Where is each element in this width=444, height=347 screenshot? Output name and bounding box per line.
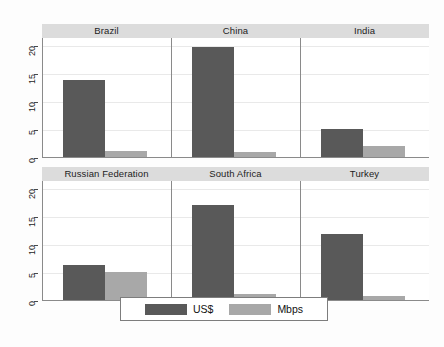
y-tick-label: 5 [27, 273, 37, 278]
y-axis-row-1: 0 5 10 15 20 [4, 38, 38, 158]
plot-area-south-africa [171, 181, 300, 301]
chart-container: 0 5 10 15 20 Brazil [0, 0, 444, 347]
panel-title-south-africa: South Africa [171, 167, 300, 181]
bars-south-africa [172, 181, 300, 300]
panel-title-india: India [300, 24, 429, 38]
y-tick-label: 0 [27, 158, 37, 163]
bars-india [301, 38, 429, 157]
legend-swatch-icon-us [145, 304, 187, 315]
bar-us-brazil[interactable] [63, 80, 105, 157]
bar-us-china[interactable] [192, 47, 234, 158]
legend-item-mbps[interactable]: Mbps [229, 303, 303, 315]
legend-item-us[interactable]: US$ [145, 303, 213, 315]
plot-area-turkey [300, 181, 429, 301]
y-tick-label: 0 [27, 301, 37, 306]
y-tick-label: 15 [27, 217, 37, 227]
chart-legend: US$ Mbps [120, 297, 328, 321]
bars-brazil [43, 38, 171, 157]
panel-title-brazil: Brazil [42, 24, 171, 38]
bar-us-russian-federation[interactable] [63, 265, 105, 300]
y-axis-row-2: 0 5 10 15 20 [4, 181, 38, 301]
bars-china [172, 38, 300, 157]
panel-india: India [300, 24, 429, 158]
y-tick-label: 5 [27, 130, 37, 135]
bar-mbps-india[interactable] [363, 146, 405, 157]
y-tick-label: 10 [27, 245, 37, 255]
plot-area-china [171, 38, 300, 158]
bar-mbps-russian-federation[interactable] [105, 272, 147, 300]
bar-mbps-china[interactable] [234, 152, 276, 157]
panel-title-china: China [171, 24, 300, 38]
plot-area-india [300, 38, 429, 158]
bar-us-south-africa[interactable] [192, 205, 234, 300]
panel-title-turkey: Turkey [300, 167, 429, 181]
bar-mbps-brazil[interactable] [105, 151, 147, 157]
panel-china: China [171, 24, 300, 158]
bars-turkey [301, 181, 429, 300]
bar-us-india[interactable] [321, 129, 363, 157]
panel-turkey: Turkey [300, 167, 429, 301]
bar-us-turkey[interactable] [321, 234, 363, 300]
y-tick-label: 15 [27, 74, 37, 84]
legend-swatch-icon-mbps [229, 304, 271, 315]
panel-brazil: Brazil [42, 24, 171, 158]
plot-area-russian-federation [42, 181, 171, 301]
bar-mbps-turkey[interactable] [363, 296, 405, 301]
legend-label-mbps: Mbps [277, 303, 303, 315]
plot-area-brazil [42, 38, 171, 158]
y-tick-label: 20 [27, 46, 37, 56]
panel-grid: 0 5 10 15 20 Brazil [0, 0, 444, 310]
y-tick-label: 10 [27, 102, 37, 112]
panel-title-russian-federation: Russian Federation [42, 167, 171, 181]
bars-russian-federation [43, 181, 171, 300]
legend-label-us: US$ [193, 303, 213, 315]
panel-russian-federation: Russian Federation [42, 167, 171, 301]
panel-south-africa: South Africa [171, 167, 300, 301]
y-tick-label: 20 [27, 189, 37, 199]
